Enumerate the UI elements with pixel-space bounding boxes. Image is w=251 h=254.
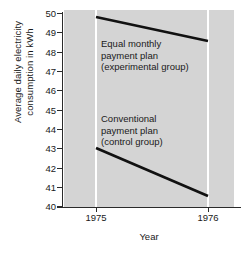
annotation-experimental-group: Equal monthly payment plan (experimental… (101, 38, 189, 73)
x-axis-line (57, 207, 241, 208)
y-axis-line (62, 12, 63, 208)
y-tick-label-48: 48 (32, 48, 56, 58)
chart-figure: Average daily electricity consumption in… (0, 0, 251, 254)
gridline-1976 (207, 10, 209, 207)
y-tick-label-50: 50 (32, 9, 56, 19)
annotation-experimental-line-1: Equal monthly (101, 38, 189, 50)
annotation-experimental-line-2: payment plan (101, 50, 189, 62)
x-tick-label-1976: 1976 (188, 212, 228, 223)
y-tick-label-44: 44 (32, 125, 56, 135)
y-tick-label-40: 40 (32, 202, 56, 212)
y-axis-label-line-1: Average daily electricity (12, 0, 24, 162)
x-axis-label: Year (64, 231, 234, 242)
y-axis-tick-labels: 50 49 48 47 46 45 44 43 42 41 40 (32, 0, 56, 254)
y-tick-label-45: 45 (32, 106, 56, 116)
annotation-control-line-3: (control group) (101, 136, 163, 148)
y-tick-label-41: 41 (32, 183, 56, 193)
y-tick-label-49: 49 (32, 28, 56, 38)
y-tick-label-46: 46 (32, 86, 56, 96)
gridline-1975 (95, 10, 97, 207)
y-tick-label-43: 43 (32, 144, 56, 154)
annotation-experimental-line-3: (experimental group) (101, 61, 189, 73)
annotation-control-group: Conventional payment plan (control group… (101, 113, 163, 148)
annotation-control-line-1: Conventional (101, 113, 163, 125)
x-tick-label-1975: 1975 (76, 212, 116, 223)
annotation-control-line-2: payment plan (101, 125, 163, 137)
y-tick-label-42: 42 (32, 164, 56, 174)
y-tick-label-47: 47 (32, 67, 56, 77)
